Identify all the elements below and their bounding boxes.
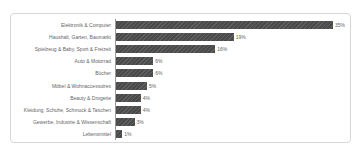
value-label: 5% bbox=[149, 83, 156, 89]
bar bbox=[116, 45, 215, 53]
bar bbox=[116, 130, 122, 138]
value-label: 35% bbox=[335, 22, 345, 28]
value-label: 16% bbox=[217, 46, 227, 52]
chart-row: Haushalt, Garten, Baumarkt19% bbox=[11, 31, 350, 43]
bar-area: 1% bbox=[115, 128, 350, 140]
chart-row: Kleidung, Schuhe, Schmuck & Taschen4% bbox=[11, 104, 350, 116]
bar-area: 6% bbox=[115, 67, 350, 79]
value-label: 6% bbox=[155, 70, 162, 76]
bar-area: 3% bbox=[115, 116, 350, 128]
chart-row: Elektronik & Computer35% bbox=[11, 19, 350, 31]
bar bbox=[116, 33, 234, 41]
bar bbox=[116, 82, 147, 90]
category-label: Kleidung, Schuhe, Schmuck & Taschen bbox=[11, 107, 115, 113]
chart-row: Auto & Motorrad6% bbox=[11, 55, 350, 67]
bar-area: 16% bbox=[115, 43, 350, 55]
chart-row: Beauty & Drogerie4% bbox=[11, 92, 350, 104]
category-label: Möbel & Wohnaccessoires bbox=[11, 83, 115, 89]
value-label: 1% bbox=[124, 131, 131, 137]
category-label: Spielzeug & Baby, Sport & Freizeit bbox=[11, 46, 115, 52]
bar-area: 35% bbox=[115, 19, 350, 31]
category-label: Gewerbe, Industrie & Wissenschaft bbox=[11, 119, 115, 125]
chart-row: Gewerbe, Industrie & Wissenschaft3% bbox=[11, 116, 350, 128]
bar-chart: Elektronik & Computer35%Haushalt, Garten… bbox=[11, 19, 350, 140]
bar-area: 19% bbox=[115, 31, 350, 43]
bar bbox=[116, 94, 141, 102]
value-label: 4% bbox=[143, 107, 150, 113]
chart-row: Möbel & Wohnaccessoires5% bbox=[11, 79, 350, 91]
screenshot-root: { "chart_data": { "type": "bar", "orient… bbox=[0, 0, 362, 156]
category-label: Beauty & Drogerie bbox=[11, 95, 115, 101]
category-label: Lebensmittel bbox=[11, 131, 115, 137]
chart-card: Elektronik & Computer35%Haushalt, Garten… bbox=[10, 13, 351, 143]
bar bbox=[116, 57, 153, 65]
value-label: 6% bbox=[155, 58, 162, 64]
category-label: Bücher bbox=[11, 70, 115, 76]
value-label: 19% bbox=[236, 34, 246, 40]
category-label: Haushalt, Garten, Baumarkt bbox=[11, 34, 115, 40]
chart-row: Lebensmittel1% bbox=[11, 128, 350, 140]
bar bbox=[116, 69, 153, 77]
bar bbox=[116, 21, 333, 29]
category-label: Auto & Motorrad bbox=[11, 58, 115, 64]
chart-row: Spielzeug & Baby, Sport & Freizeit16% bbox=[11, 43, 350, 55]
bar-area: 4% bbox=[115, 92, 350, 104]
value-label: 4% bbox=[143, 95, 150, 101]
bar-area: 5% bbox=[115, 79, 350, 91]
bar-area: 6% bbox=[115, 55, 350, 67]
bar bbox=[116, 106, 141, 114]
chart-row: Bücher6% bbox=[11, 67, 350, 79]
bar bbox=[116, 118, 135, 126]
value-label: 3% bbox=[137, 119, 144, 125]
category-label: Elektronik & Computer bbox=[11, 22, 115, 28]
bar-area: 4% bbox=[115, 104, 350, 116]
